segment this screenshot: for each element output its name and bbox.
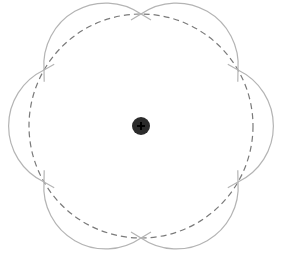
petal-arc bbox=[238, 70, 273, 182]
diagram-canvas bbox=[0, 0, 281, 277]
petal-arc bbox=[141, 3, 238, 70]
petal-crossing bbox=[131, 232, 151, 238]
petal-crossing bbox=[44, 170, 54, 187]
petal-arc bbox=[9, 70, 44, 182]
petal-arc bbox=[44, 182, 141, 249]
center-marker[interactable] bbox=[132, 117, 150, 135]
petal-arc bbox=[44, 3, 141, 70]
petal-crossing bbox=[131, 14, 151, 20]
petal-arc bbox=[141, 182, 238, 249]
